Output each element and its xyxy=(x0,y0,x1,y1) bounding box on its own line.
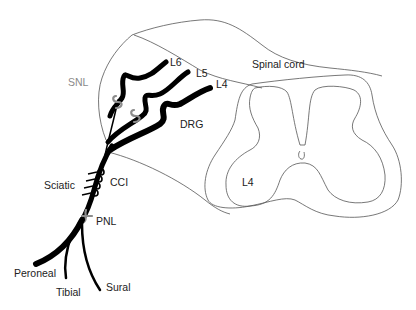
label-l4-section: L4 xyxy=(242,176,254,188)
distal-branches xyxy=(36,220,100,290)
label-pnl: PNL xyxy=(96,215,117,227)
label-l5: L5 xyxy=(196,67,208,79)
label-cci: CCI xyxy=(110,176,128,188)
label-peroneal: Peroneal xyxy=(14,267,56,279)
label-snl: SNL xyxy=(68,76,89,88)
label-drg: DRG xyxy=(180,118,203,130)
label-sural: Sural xyxy=(106,281,131,293)
label-l6: L6 xyxy=(170,56,182,68)
spinal-cord-cross-section xyxy=(205,75,401,217)
diagram-canvas: Spinal cord SNL L6 L5 L4 DRG L4 Sciatic … xyxy=(0,0,416,310)
peroneal-nerve xyxy=(36,220,82,264)
sural-nerve xyxy=(82,224,100,290)
label-spinal-cord: Spinal cord xyxy=(252,58,305,70)
label-tibial: Tibial xyxy=(56,286,81,298)
label-sciatic: Sciatic xyxy=(44,179,75,191)
label-l4-root: L4 xyxy=(216,78,228,90)
